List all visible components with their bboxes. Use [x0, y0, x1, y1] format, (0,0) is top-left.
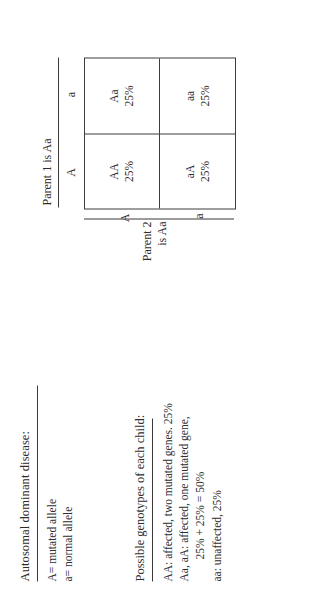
- punnett-cell: AA 25%: [85, 133, 160, 208]
- genotype-line-aa-dominant: AA: affected, two mutated genes. 25%: [160, 311, 176, 581]
- genotype-line-sum: 25% + 25% = 50%: [192, 311, 208, 581]
- genotypes-title: Possible genotypes of each child:: [133, 311, 148, 581]
- punnett-cell: aA 25%: [160, 133, 235, 208]
- allele-key-recessive: a= normal allele: [61, 311, 77, 581]
- cell-genotype: aA: [183, 164, 198, 177]
- punnett-square: Parent 1 is Aa A a Parent 2 is Aa A a AA…: [40, 15, 302, 281]
- cell-genotype: AA: [107, 163, 122, 180]
- punnett-grid: AA 25% Aa 25% aA 25% aa 25%: [84, 57, 236, 209]
- notes-block: Autosomal dominant disease: A= mutated a…: [18, 311, 225, 581]
- cell-percent: 25%: [122, 160, 137, 181]
- disease-title: Autosomal dominant disease:: [18, 311, 33, 581]
- cell-percent: 25%: [122, 85, 137, 106]
- scanned-page: Autosomal dominant disease: A= mutated a…: [0, 0, 330, 599]
- parent2-underline: [84, 218, 234, 219]
- parent2-label: Parent 2 is Aa: [140, 221, 170, 279]
- parent2-label-line1: Parent 2: [140, 221, 154, 261]
- allele-key-dominant: A= mutated allele: [45, 311, 61, 581]
- column-header-a-dominant: A: [64, 135, 79, 209]
- row-header-a-recessive: a: [192, 213, 207, 237]
- row-header-a-dominant: A: [118, 213, 133, 237]
- cell-percent: 25%: [198, 85, 213, 106]
- genotypes-underline: [152, 418, 153, 581]
- cell-genotype: aa: [183, 90, 198, 100]
- parent2-label-line2: is Aa: [155, 221, 169, 245]
- cell-percent: 25%: [198, 160, 213, 181]
- genotype-line-unaffected: aa: unaffected, 25%: [209, 311, 225, 581]
- parent1-label: Parent 1 is Aa: [40, 138, 55, 205]
- punnett-cell: aa 25%: [160, 58, 235, 133]
- cell-genotype: Aa: [107, 89, 122, 102]
- column-header-a-recessive: a: [64, 57, 79, 131]
- genotype-line-heterozygous: Aa, aA: affected, one mutated gene,: [176, 311, 192, 581]
- parent1-underline: [58, 57, 59, 207]
- title-underline: [37, 385, 38, 581]
- punnett-cell: Aa 25%: [85, 58, 160, 133]
